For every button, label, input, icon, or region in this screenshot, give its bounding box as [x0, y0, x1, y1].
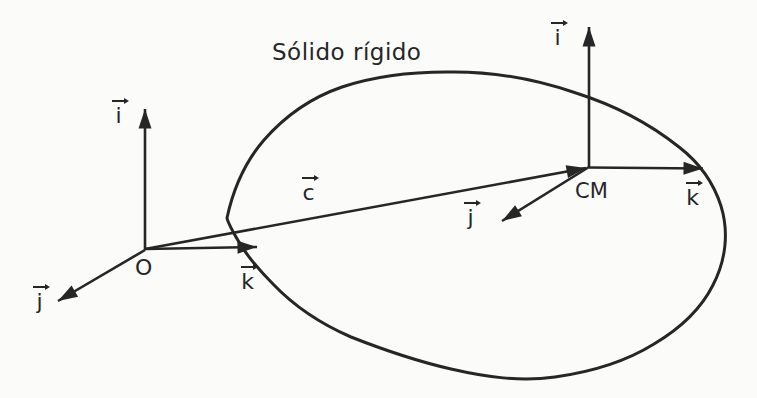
- cm-j-axis-label: j: [464, 202, 477, 229]
- axis-letter: j: [467, 207, 473, 229]
- axis-letter: k: [686, 187, 699, 209]
- axis-letter: i: [115, 105, 121, 127]
- vector-arrow-overbar: [686, 182, 699, 184]
- figure: Sólido rígido i j k O c i j k CM: [0, 0, 757, 398]
- vector-arrow-overbar: [112, 100, 125, 102]
- vector-arrow-overbar: [241, 266, 254, 268]
- vector-arrow-overbar: [33, 286, 46, 288]
- vector-arrow-overbar: [302, 177, 315, 179]
- vector-arrow-overbar: [551, 22, 564, 24]
- origin-j-axis-label: j: [33, 286, 46, 313]
- origin-k-axis-label: k: [241, 266, 254, 293]
- axis-letter: i: [554, 27, 560, 49]
- figure-title: Sólido rígido: [272, 41, 421, 64]
- origin-k-axis-arrow: [145, 247, 257, 249]
- axis-letter: k: [241, 271, 254, 293]
- cm-i-axis-label: i: [551, 22, 564, 49]
- origin-j-axis-arrow: [58, 250, 145, 301]
- cm-k-axis-label: k: [686, 182, 699, 209]
- cm-point-label: CM: [575, 181, 608, 202]
- axis-letter: j: [36, 291, 42, 313]
- vector-arrow-overbar: [464, 202, 477, 204]
- origin-i-axis-label: i: [112, 100, 125, 127]
- origin-point-label: O: [135, 257, 152, 279]
- cm-k-axis-arrow: [589, 168, 703, 169]
- vector-letter: c: [302, 182, 314, 204]
- vector-c-label: c: [302, 177, 315, 204]
